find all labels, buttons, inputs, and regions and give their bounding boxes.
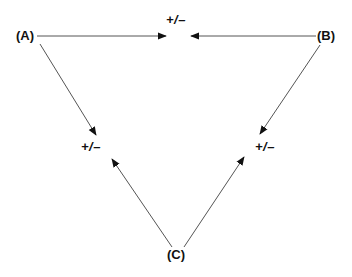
- triangle-interaction-diagram: (A) (B) (C) +/– +/– +/–: [0, 0, 352, 277]
- diagram-canvas: [0, 0, 352, 277]
- node-b-label: (B): [317, 29, 335, 42]
- left-sign-label: +/–: [81, 140, 101, 153]
- right-sign-label: +/–: [255, 140, 275, 153]
- arrow-c-to-right: [184, 157, 244, 247]
- arrow-a-to-left: [40, 44, 96, 135]
- arrow-b-to-right: [260, 45, 320, 134]
- top-sign-label: +/–: [166, 13, 186, 26]
- arrow-c-to-left: [112, 159, 172, 247]
- node-c-label: (C): [167, 248, 185, 261]
- node-a-label: (A): [16, 29, 34, 42]
